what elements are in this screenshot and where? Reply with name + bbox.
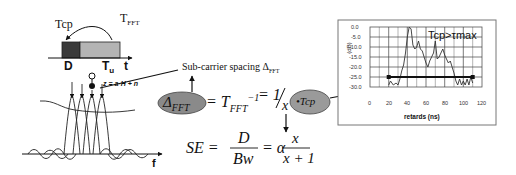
tu-label: Tu	[102, 59, 114, 75]
d-label: D	[64, 59, 73, 73]
subcarrier-spectrum	[22, 82, 162, 159]
frequency-axis-label: f	[152, 157, 156, 169]
time-axis-label: t	[124, 59, 128, 73]
chart-xlabel: retards (ns)	[404, 113, 440, 120]
one-over-x-numerator: = 1	[258, 86, 281, 104]
subcarrier-spacing-label: Sub-carrier spacing ΔFFT	[182, 61, 279, 74]
tcp-ellipse-label: •Tcp	[296, 95, 315, 107]
pilot-open-circle	[89, 73, 95, 79]
channel-equation-label: z = a·H + n	[103, 80, 138, 87]
se-lhs: SE =	[186, 139, 219, 157]
se-alpha: = α	[262, 139, 285, 157]
chart-annotation: Tcp>τmax	[428, 29, 477, 41]
tfft-inverse: = TFFT−1	[206, 92, 259, 114]
delta-fft-symbol: ΔFFT	[163, 94, 190, 113]
se-denominator-bw: Bw	[233, 150, 253, 168]
tcp-label: Tcp	[55, 17, 73, 32]
cyclic-prefix-block	[62, 42, 80, 58]
cp-copy-arrow	[66, 27, 112, 41]
one-over-x-denominator: x	[282, 98, 288, 114]
tfft-label: TFFT	[120, 11, 139, 27]
se-denominator-x-plus-1: x + 1	[283, 150, 315, 167]
data-block	[80, 42, 120, 58]
se-numerator-x: x	[292, 130, 299, 147]
se-numerator-d: D	[238, 129, 250, 147]
pilot-filled-circle	[89, 83, 95, 89]
